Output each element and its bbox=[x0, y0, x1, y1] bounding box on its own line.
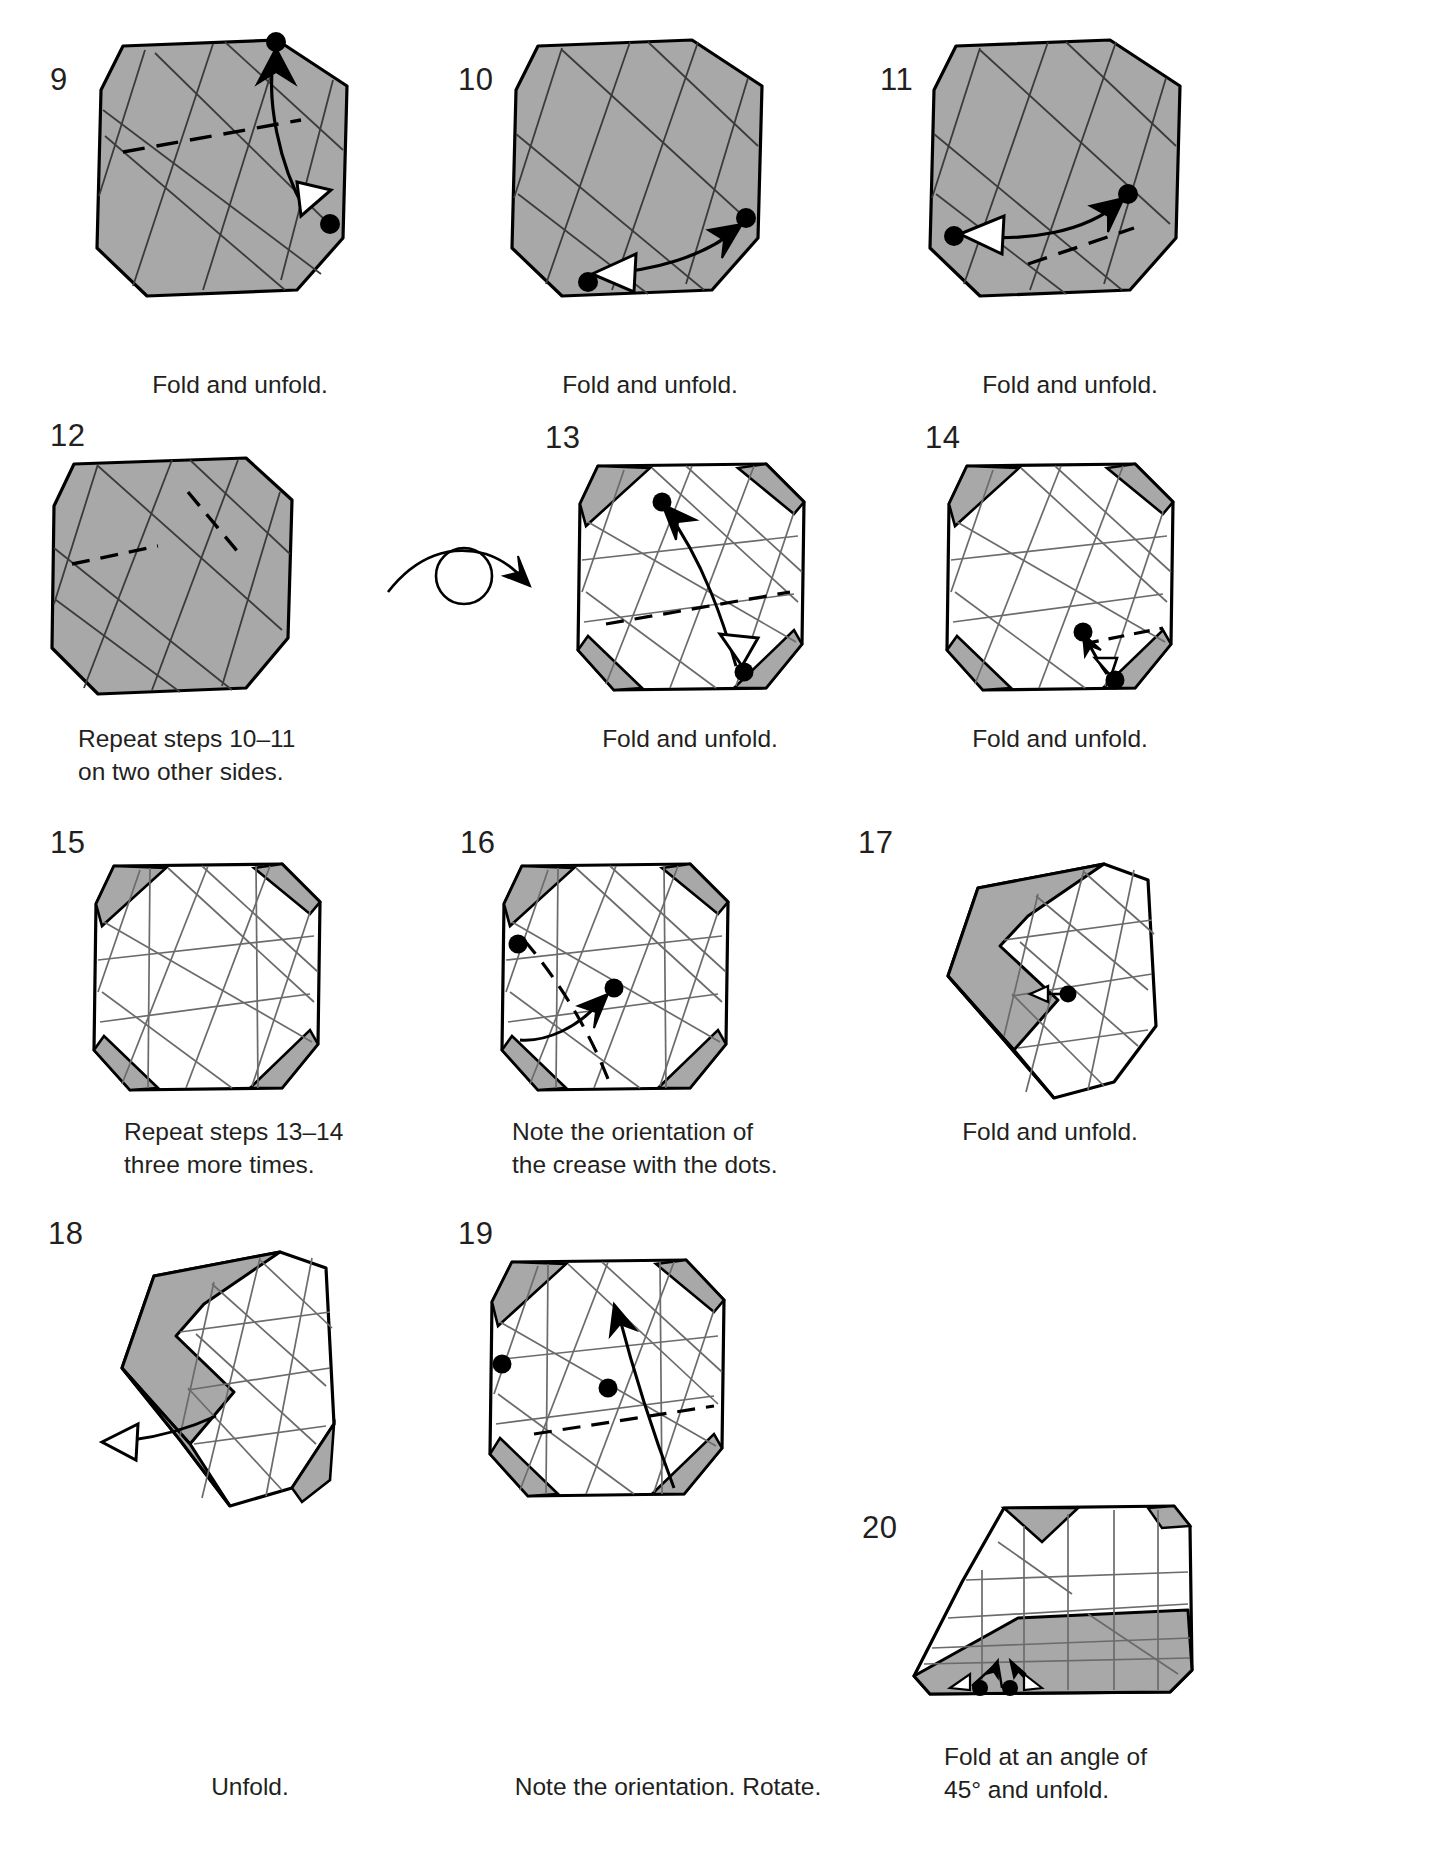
figure-step-10 bbox=[500, 28, 770, 298]
reference-dot bbox=[736, 208, 756, 228]
figure-step-9 bbox=[85, 28, 355, 298]
paper-outline bbox=[930, 40, 1180, 296]
figure-step-11 bbox=[918, 28, 1188, 298]
caption-step-12: Repeat steps 10–11 on two other sides. bbox=[78, 722, 418, 788]
reference-dot bbox=[266, 32, 286, 52]
step-number-18: 18 bbox=[48, 1218, 83, 1249]
turn-over-loop-icon bbox=[436, 548, 492, 604]
caption-step-18: Unfold. bbox=[70, 1770, 430, 1803]
caption-step-14: Fold and unfold. bbox=[880, 722, 1240, 755]
reference-dot bbox=[1118, 184, 1138, 204]
origami-instruction-page: 9 bbox=[0, 0, 1443, 1862]
turn-over-symbol bbox=[380, 520, 560, 610]
reference-dot bbox=[493, 1355, 512, 1374]
step-number-12: 12 bbox=[50, 420, 85, 451]
step-number-11: 11 bbox=[880, 64, 913, 95]
caption-step-17: Fold and unfold. bbox=[870, 1115, 1230, 1148]
step-number-17: 17 bbox=[858, 827, 893, 858]
reference-dot bbox=[599, 1379, 618, 1398]
reference-dot bbox=[509, 935, 528, 954]
figure-step-20 bbox=[902, 1498, 1202, 1718]
caption-step-20: Fold at an angle of 45° and unfold. bbox=[944, 1740, 1324, 1806]
figure-step-19 bbox=[478, 1248, 738, 1508]
reference-dot bbox=[944, 226, 964, 246]
step-number-9: 9 bbox=[50, 64, 68, 95]
figure-step-14 bbox=[935, 452, 1185, 702]
reference-dot bbox=[605, 979, 624, 998]
caption-step-16: Note the orientation of the crease with … bbox=[512, 1115, 872, 1181]
figure-step-15 bbox=[82, 852, 332, 1102]
figure-step-18 bbox=[80, 1240, 360, 1520]
caption-step-19: Note the orientation. Rotate. bbox=[468, 1770, 868, 1803]
reference-dot bbox=[972, 1680, 988, 1696]
caption-step-10: Fold and unfold. bbox=[440, 368, 860, 401]
caption-step-13: Fold and unfold. bbox=[510, 722, 870, 755]
caption-step-11: Fold and unfold. bbox=[860, 368, 1280, 401]
reference-dot bbox=[1074, 623, 1093, 642]
reference-dot bbox=[1106, 671, 1125, 690]
reference-dot bbox=[1060, 986, 1077, 1003]
figure-step-12 bbox=[40, 448, 310, 698]
step-number-13: 13 bbox=[545, 422, 580, 453]
reference-dot bbox=[578, 272, 598, 292]
step-number-20: 20 bbox=[862, 1512, 897, 1543]
step-number-19: 19 bbox=[458, 1218, 493, 1249]
step-number-14: 14 bbox=[925, 422, 960, 453]
reference-dot bbox=[320, 214, 340, 234]
reference-dot bbox=[1002, 1680, 1018, 1696]
arrow-head-hollow bbox=[102, 1424, 138, 1460]
turn-over-arc bbox=[388, 551, 526, 592]
figure-step-16 bbox=[490, 852, 740, 1102]
step-number-10: 10 bbox=[458, 64, 493, 95]
figure-step-17 bbox=[908, 850, 1178, 1110]
step-number-15: 15 bbox=[50, 827, 85, 858]
caption-step-15: Repeat steps 13–14 three more times. bbox=[124, 1115, 464, 1181]
caption-step-9: Fold and unfold. bbox=[30, 368, 450, 401]
reference-dot bbox=[653, 493, 672, 512]
reference-dot bbox=[735, 663, 754, 682]
figure-step-13 bbox=[566, 452, 816, 702]
